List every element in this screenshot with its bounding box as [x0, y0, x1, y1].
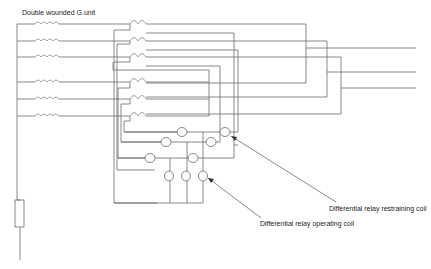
winding-3: [17, 55, 130, 57]
neutral-resistor: [15, 200, 24, 260]
operating-coil-3: [199, 171, 208, 181]
restraining-coil-6: [188, 154, 198, 163]
winding-5: [17, 97, 130, 99]
restraining-coil-1: [177, 128, 187, 137]
operating-coil-2: [182, 171, 191, 181]
operating-coil-1: [165, 171, 174, 181]
restraining-coil-2: [220, 128, 230, 137]
title-label: Double wounded G.unit: [22, 9, 95, 16]
phase-lines: [113, 24, 416, 116]
differential-protection-diagram: Double wounded G.unit: [0, 0, 431, 269]
winding-2: [17, 39, 130, 41]
winding-4: [17, 80, 130, 82]
operating-coils: [165, 171, 208, 181]
restraining-coil-5: [145, 154, 155, 163]
restraining-coil-label: Differential relay restraining coil: [329, 205, 427, 213]
restraining-coil-4: [206, 138, 216, 147]
winding-1: [17, 22, 130, 24]
restraining-coils: [145, 128, 230, 163]
operating-coil-label: Differential relay operating coil: [260, 220, 354, 228]
current-transformers: [130, 21, 146, 117]
annotation-arrows: [208, 136, 336, 218]
winding-6: [17, 114, 130, 116]
restraining-coil-3: [161, 138, 171, 147]
